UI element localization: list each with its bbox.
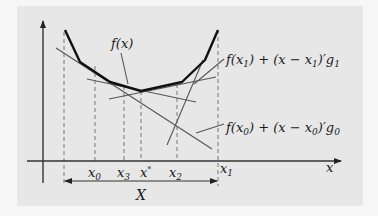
dashed-guides [64, 30, 218, 186]
x-axis-label: x [326, 160, 334, 175]
leader-fx-label [121, 53, 128, 84]
interval-label: X [135, 187, 147, 203]
tick-label-xstar: x* [140, 165, 151, 180]
tick-label-x3: x3 [117, 165, 130, 182]
tangent-x0-label: f(x0) + (x − x0)′g0 [225, 120, 340, 137]
tangent-x0 [56, 48, 212, 149]
cutting-plane-diagram: f(x) f(x1) + (x − x1)′g1 f(x0) + (x − x0… [0, 0, 378, 216]
leader-x0-label [196, 124, 224, 133]
tick-label-x1: x1 [220, 161, 233, 178]
tangent-x2 [109, 77, 216, 99]
tick-label-x0: x0 [88, 165, 101, 182]
tangent-x1-label: f(x1) + (x − x1)′g1 [225, 52, 340, 69]
curve-label: f(x) [110, 36, 133, 51]
tick-label-x2: x2 [169, 165, 182, 182]
